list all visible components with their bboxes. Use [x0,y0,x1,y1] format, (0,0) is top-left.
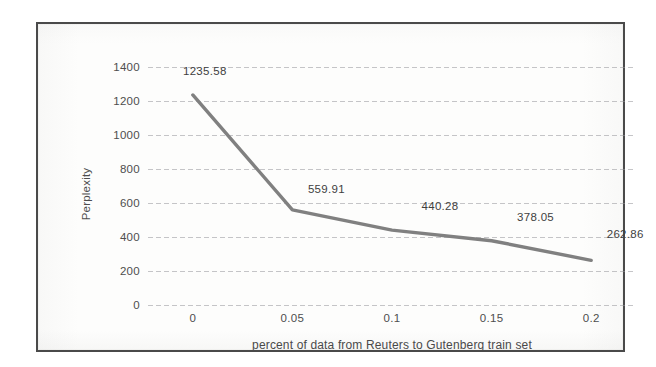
y-axis-tick-label: 600 [120,197,140,209]
x-axis-tick-label: 0.15 [480,312,504,324]
y-axis-tick-label: 400 [120,231,140,243]
y-axis-tick-label: 0 [133,299,140,311]
x-axis-tick-label: 0 [189,312,196,324]
figure-frame: Perplexity 1400120010008006004002000 123… [36,22,625,352]
x-axis-title: percent of data from Reuters to Gutenber… [148,338,636,352]
series-polyline [193,95,591,260]
perplexity-line-series [148,67,636,305]
chart-screenshot: Perplexity 1400120010008006004002000 123… [0,0,656,367]
y-axis-title: Perplexity [78,152,94,236]
data-point-label: 262.86 [607,228,644,240]
y-axis-tick-label: 200 [120,265,140,277]
gridline [148,305,636,306]
data-point-label: 559.91 [308,183,345,195]
x-axis-tick-label: 0.1 [384,312,401,324]
y-axis-tick-label: 1400 [113,61,140,73]
x-axis-tick-label: 0.2 [583,312,600,324]
y-axis-tick-label: 800 [120,163,140,175]
data-point-label: 378.05 [517,211,554,223]
x-axis-tick-labels: 00.050.10.150.2 [148,312,636,330]
plot-area: 1235.58559.91440.28378.05262.86 [148,67,636,305]
x-axis-tick-label: 0.05 [281,312,305,324]
data-point-label: 1235.58 [183,65,227,77]
y-axis-tick-label: 1000 [113,129,140,141]
y-axis-tick-label: 1200 [113,95,140,107]
data-point-label: 440.28 [422,200,459,212]
y-axis-title-text: Perplexity [80,168,92,221]
y-axis-tick-labels: 1400120010008006004002000 [96,67,140,305]
